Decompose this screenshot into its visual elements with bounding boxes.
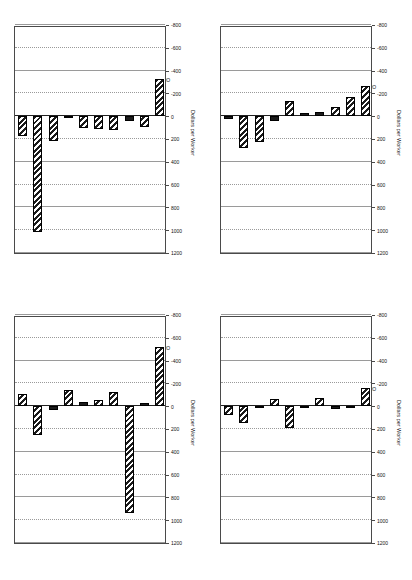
axis-tick-mark xyxy=(166,429,169,430)
axis-tick-label: -600 xyxy=(171,46,181,51)
bar xyxy=(300,113,309,116)
axis-tick-mark xyxy=(166,520,169,521)
axis-tick-mark xyxy=(372,520,375,521)
axis-tick-mark xyxy=(166,497,169,498)
bar xyxy=(125,406,134,513)
axis-tick-label: 400 xyxy=(377,160,385,165)
axis-tick-label: -600 xyxy=(377,46,387,51)
bar xyxy=(331,107,340,117)
bar xyxy=(64,116,73,118)
gridline xyxy=(15,474,165,475)
axis-tick-mark xyxy=(166,338,169,339)
axis-tick-mark xyxy=(372,475,375,476)
axis-tick-mark xyxy=(166,207,169,208)
axis-tick-label: -200 xyxy=(171,382,181,387)
axis-tick-mark xyxy=(166,361,169,362)
gridline xyxy=(221,337,371,338)
axis-tick-label: 600 xyxy=(377,473,385,478)
gridline xyxy=(221,519,371,520)
axis-tick-label: -600 xyxy=(377,336,387,341)
bar xyxy=(140,403,149,406)
axis-tick-mark xyxy=(166,406,169,407)
axis-tick-label: -800 xyxy=(377,314,387,319)
axis-tick-mark xyxy=(372,383,375,384)
axis-tick-label: 600 xyxy=(171,183,179,188)
axis-tick-mark xyxy=(166,71,169,72)
axis-tick-mark xyxy=(166,116,169,117)
gridline xyxy=(221,451,371,452)
bar xyxy=(285,406,294,428)
axis-tick-label: 400 xyxy=(171,160,179,165)
chart-panel: 120010008006004002000-200-400-600-800PET… xyxy=(206,290,412,580)
gridline xyxy=(221,360,371,361)
axis-tick-mark xyxy=(372,315,375,316)
axis-tick-label: 0 xyxy=(377,405,380,410)
gridline xyxy=(221,92,371,93)
gridline xyxy=(221,382,371,383)
bar xyxy=(94,400,103,406)
axis-tick-label: 800 xyxy=(171,496,179,501)
gridline xyxy=(221,428,371,429)
gridline xyxy=(221,24,371,25)
axis-tick-label: 800 xyxy=(377,206,385,211)
axis-tick-label: 1200 xyxy=(377,542,388,547)
bar xyxy=(33,116,42,232)
bar xyxy=(109,116,118,130)
plot-area xyxy=(220,316,372,544)
axis-tick-mark xyxy=(372,253,375,254)
bar xyxy=(155,79,164,117)
gridline xyxy=(15,382,165,383)
axis-tick-label: 800 xyxy=(171,206,179,211)
chart-rotated-area: 120010008006004002000-200-400-600-800PET… xyxy=(206,0,412,290)
gridline xyxy=(221,184,371,185)
chart-rotated-area: 120010008006004002000-200-400-600-800PET… xyxy=(0,0,206,290)
axis-tick-label: 1200 xyxy=(171,252,182,257)
bar xyxy=(361,388,370,406)
axis-tick-label: 0 xyxy=(377,115,380,120)
axis-tick-mark xyxy=(166,185,169,186)
bar xyxy=(285,101,294,116)
axis-tick-label: -400 xyxy=(377,359,387,364)
gridline xyxy=(221,314,371,315)
axis-tick-label: -800 xyxy=(171,314,181,319)
axis-tick-mark xyxy=(372,185,375,186)
bar xyxy=(346,97,355,116)
axis-tick-label: -400 xyxy=(171,69,181,74)
axis-tick-label: 200 xyxy=(377,138,385,143)
axis-tick-mark xyxy=(166,452,169,453)
axis-tick-label: 1200 xyxy=(377,252,388,257)
axis-tick-label: 800 xyxy=(377,496,385,501)
bar xyxy=(49,116,58,141)
bar xyxy=(64,390,73,407)
axis-tick-mark xyxy=(372,543,375,544)
axis-tick-mark xyxy=(372,497,375,498)
axis-tick-label: 0 xyxy=(171,115,174,120)
axis-tick-mark xyxy=(372,25,375,26)
bar xyxy=(33,406,42,435)
bar xyxy=(239,406,248,423)
axis-tick-mark xyxy=(372,71,375,72)
axis-tick-mark xyxy=(372,162,375,163)
axis-tick-mark xyxy=(166,475,169,476)
bar xyxy=(239,116,248,148)
bar xyxy=(224,406,233,415)
gridline xyxy=(15,542,165,543)
axis-tick-mark xyxy=(166,543,169,544)
gridline xyxy=(221,542,371,543)
plot-area xyxy=(14,316,166,544)
bar xyxy=(361,86,370,116)
bar xyxy=(255,116,264,142)
bar xyxy=(224,116,233,119)
bar xyxy=(18,394,27,406)
bar xyxy=(79,402,88,407)
gridline xyxy=(15,47,165,48)
gridline xyxy=(221,161,371,162)
plot-area xyxy=(14,26,166,254)
axis-tick-label: 200 xyxy=(171,428,179,433)
axis-title: Dollars per Worker xyxy=(190,110,196,156)
gridline xyxy=(15,314,165,315)
gridline xyxy=(15,360,165,361)
bar xyxy=(94,116,103,129)
axis-tick-label: 200 xyxy=(377,428,385,433)
axis-tick-label: 200 xyxy=(171,138,179,143)
